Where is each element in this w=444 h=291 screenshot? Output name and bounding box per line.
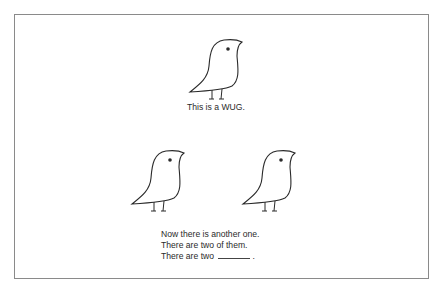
bottom-caption: Now there is another one. There are two … (161, 229, 259, 262)
wug-bird-icon (130, 146, 190, 214)
wug-bird-icon (188, 36, 248, 102)
wug-caption: This is a WUG. (187, 102, 245, 113)
caption-line-2: There are two of them. (161, 240, 259, 251)
caption-line-3: There are two . (161, 251, 259, 262)
wug-bird-icon (241, 146, 301, 214)
caption-line-3-prefix: There are two (161, 251, 214, 261)
answer-blank (218, 251, 250, 259)
caption-line-3-suffix: . (252, 251, 254, 261)
caption-line-1: Now there is another one. (161, 229, 259, 240)
